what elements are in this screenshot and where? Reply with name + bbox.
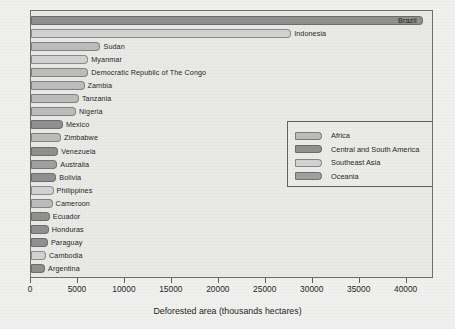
legend-label: Africa: [331, 131, 350, 140]
bar: [31, 107, 76, 116]
bar-label: Zambia: [88, 81, 113, 90]
bar-row: Honduras: [31, 225, 432, 234]
bar: [31, 251, 46, 260]
bar: [31, 186, 54, 195]
legend-label: Central and South America: [331, 145, 419, 154]
legend-item: Africa: [295, 130, 350, 141]
bar-label: Nigeria: [79, 107, 102, 116]
legend-swatch: [295, 145, 322, 153]
bar: [31, 94, 79, 103]
plot-area: BrazilIndonesiaSudanMyanmarDemocratic Re…: [30, 10, 433, 278]
bar-label: Democratic Republic of The Congo: [91, 68, 206, 77]
x-tick: [359, 278, 360, 283]
legend-swatch: [295, 159, 322, 167]
bar-label: Mexico: [66, 120, 89, 129]
bar-row: Cambodia: [31, 251, 432, 260]
legend-item: Oceania: [295, 171, 359, 182]
bar-row: Ecuador: [31, 212, 432, 221]
bar-label: Cameroon: [56, 199, 90, 208]
bar-label: Myanmar: [91, 55, 122, 64]
x-tick-label: 40000: [394, 284, 417, 294]
bar: [31, 29, 291, 38]
x-tick-label: 20000: [206, 284, 229, 294]
bar-row: Democratic Republic of The Congo: [31, 68, 432, 77]
bar-row: Argentina: [31, 264, 432, 273]
bar-label: Brazil: [398, 16, 417, 25]
bar: [31, 212, 50, 221]
x-tick-label: 35000: [347, 284, 370, 294]
x-tick-label: 5000: [68, 284, 87, 294]
bar: [31, 264, 45, 273]
bar-label: Bolivia: [59, 173, 81, 182]
bar-row: Indonesia: [31, 29, 432, 38]
bar: [31, 120, 63, 129]
x-tick: [30, 278, 31, 283]
bar-label: Honduras: [52, 225, 84, 234]
x-tick-label: 15000: [159, 284, 182, 294]
bar-label: Australia: [60, 160, 89, 169]
bar-label: Sudan: [103, 42, 124, 51]
bar: [31, 16, 423, 25]
bar-label: Venezuela: [61, 147, 95, 156]
bar-row: Sudan: [31, 42, 432, 51]
bar-label: Zimbabwe: [64, 133, 98, 142]
x-tick: [171, 278, 172, 283]
x-tick-label: 30000: [300, 284, 323, 294]
bar-row: Paraguay: [31, 238, 432, 247]
x-tick: [77, 278, 78, 283]
bar-label: Tanzania: [82, 94, 112, 103]
bar-label: Indonesia: [294, 29, 326, 38]
legend-label: Southeast Asia: [331, 158, 380, 167]
figure: BrazilIndonesiaSudanMyanmarDemocratic Re…: [0, 0, 455, 329]
x-tick: [312, 278, 313, 283]
bar-label: Argentina: [48, 264, 80, 273]
x-axis-label: Deforested area (thousands hectares): [0, 306, 455, 316]
bar-label: Paraguay: [51, 238, 83, 247]
x-axis: 0500010000150002000025000300003500040000: [30, 278, 433, 279]
bar: [31, 147, 58, 156]
legend-item: Southeast Asia: [295, 157, 380, 168]
bar-label: Philippines: [57, 186, 93, 195]
bar-row: Tanzania: [31, 94, 432, 103]
legend-item: Central and South America: [295, 144, 419, 155]
bar-label: Ecuador: [53, 212, 80, 221]
bar-row: Nigeria: [31, 107, 432, 116]
bar: [31, 160, 57, 169]
x-tick: [218, 278, 219, 283]
bar: [31, 199, 53, 208]
legend-swatch: [295, 172, 322, 180]
bar: [31, 68, 88, 77]
x-tick-label: 0: [28, 284, 33, 294]
x-tick-label: 10000: [112, 284, 135, 294]
legend-label: Oceania: [331, 172, 359, 181]
legend-swatch: [295, 132, 322, 140]
bar: [31, 81, 85, 90]
x-tick: [124, 278, 125, 283]
x-tick-label: 25000: [253, 284, 276, 294]
bar: [31, 238, 48, 247]
bar: [31, 225, 49, 234]
bar: [31, 133, 61, 142]
bar: [31, 173, 56, 182]
bar-row: Brazil: [31, 16, 423, 25]
x-tick: [406, 278, 407, 283]
bar: [31, 55, 88, 64]
bar-row: Cameroon: [31, 199, 432, 208]
x-tick: [265, 278, 266, 283]
bar: [31, 42, 100, 51]
bar-row: Zambia: [31, 81, 432, 90]
bar-row: Myanmar: [31, 55, 432, 64]
bar-label: Cambodia: [49, 251, 83, 260]
chart-legend: AfricaCentral and South AmericaSoutheast…: [287, 121, 433, 187]
